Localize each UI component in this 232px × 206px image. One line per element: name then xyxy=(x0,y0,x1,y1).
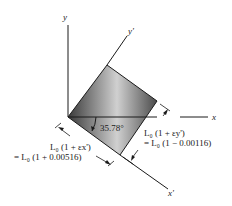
dimension-y-prime-line2: = L₀ (1 − 0.00116) xyxy=(144,138,211,148)
dimension-x-prime-line1: L₀ (1 + εx') xyxy=(50,142,91,152)
angle-label: 35.78° xyxy=(100,123,124,133)
y-prime-axis-label: y' xyxy=(128,26,134,36)
y-axis-label: y xyxy=(63,12,67,22)
dimension-x-prime-line2: = L₀ (1 + 0.00516) xyxy=(14,152,82,162)
strain-diagram xyxy=(0,0,232,206)
y-prime-axis xyxy=(107,36,127,65)
dimension-y-prime-line1: L₀ (1 + εy') xyxy=(144,128,185,138)
x-axis-label: x xyxy=(212,112,216,122)
x-prime-axis-label: x' xyxy=(168,188,174,198)
